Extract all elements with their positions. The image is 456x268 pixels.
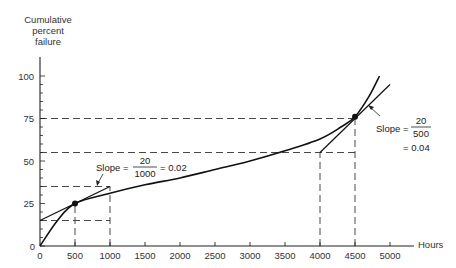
y-tick-label: 25 <box>23 198 34 209</box>
x-axis-title: Hours <box>418 239 444 250</box>
slope2-result: = 0.04 <box>403 142 430 153</box>
y-tick-label: 100 <box>18 71 34 82</box>
slope1-numerator: 20 <box>140 155 151 166</box>
x-tick-label: 500 <box>67 250 83 261</box>
x-tick-label: 4500 <box>344 250 365 261</box>
x-tick-label: 0 <box>37 250 42 261</box>
x-tick-label: 5000 <box>379 250 400 261</box>
slope1-denominator: 1000 <box>134 168 155 179</box>
annotations: Slope = 20 1000 = 0.02 Slope = 20 500 = … <box>96 105 444 250</box>
x-tick-label: 4000 <box>309 250 330 261</box>
slope2-prefix: Slope = <box>376 123 409 134</box>
x-tick-label: 2500 <box>204 250 225 261</box>
series <box>40 76 390 246</box>
reference-lines <box>40 117 355 246</box>
x-tick-label: 1500 <box>134 250 155 261</box>
tangent-point <box>72 201 78 207</box>
slope1-result: = 0.02 <box>160 162 187 173</box>
y-tick-label: 0 <box>30 241 35 252</box>
x-tick-label: 1000 <box>99 250 120 261</box>
y-tick-label: 50 <box>23 156 34 167</box>
x-tick-label: 3000 <box>239 250 260 261</box>
slope2-numerator: 20 <box>416 115 427 126</box>
slope2-denominator: 500 <box>413 128 429 139</box>
slope1-prefix: Slope = <box>96 162 129 173</box>
x-tick-label: 2000 <box>169 250 190 261</box>
x-tick-label: 3500 <box>274 250 295 261</box>
slope2-arrow-head <box>368 105 374 110</box>
y-tick-label: 75 <box>23 113 34 124</box>
tangent-point <box>352 114 358 120</box>
cumulative-failure-chart: 0500100015002000250030003500400045005000… <box>0 0 456 268</box>
slope2-arrow-line <box>371 108 380 116</box>
